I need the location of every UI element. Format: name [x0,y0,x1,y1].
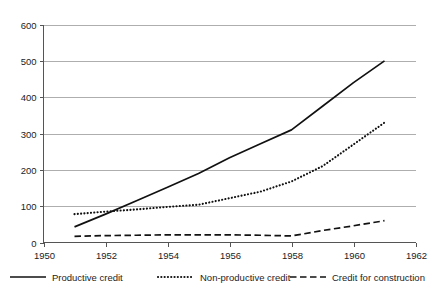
y-tick-label: 0 [31,238,36,249]
series-line-non-productive-credit [75,123,385,215]
axes-group [40,25,417,247]
y-tick-label: 100 [21,201,37,212]
y-tick-label: 500 [21,56,37,67]
legend-label: Non-productive credit [200,272,291,283]
y-tick-label: 400 [21,92,37,103]
gridlines-group [44,26,416,207]
x-tick-labels-group: 1950195219541956195819601962 [34,250,427,261]
y-tick-label: 200 [21,165,37,176]
x-tick-label: 1950 [34,250,55,261]
x-tick-label: 1952 [96,250,117,261]
y-tick-label: 600 [21,20,37,31]
x-tick-label: 1960 [344,250,365,261]
x-tick-label: 1958 [282,250,303,261]
x-tick-label: 1954 [158,250,179,261]
legend-group: Productive creditNon-productive creditCr… [10,272,425,283]
legend-label: Credit for construction [332,272,425,283]
chart-container: 0100200300400500600 19501952195419561958… [0,0,438,294]
series-line-productive-credit [75,61,385,227]
line-chart: 0100200300400500600 19501952195419561958… [0,0,438,294]
y-tick-label: 300 [21,129,37,140]
x-tick-label: 1962 [406,250,427,261]
series-line-credit-for-construction [75,221,385,237]
legend-label: Productive credit [52,272,123,283]
y-tick-labels-group: 0100200300400500600 [21,20,37,249]
x-tick-label: 1956 [220,250,241,261]
series-group [75,61,385,236]
